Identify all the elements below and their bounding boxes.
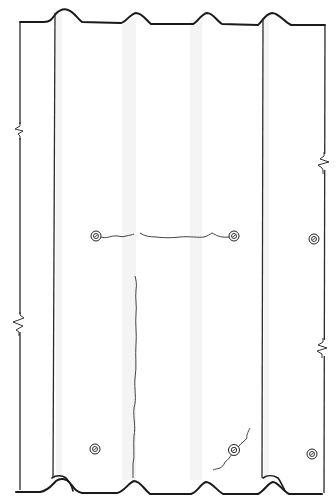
top-profile (20, 9, 325, 25)
left-panel-edge (53, 13, 55, 478)
fastener-f3 (309, 234, 319, 244)
fastener-f5 (229, 445, 240, 456)
horizontal-crack (101, 233, 229, 238)
shading-bands (56, 10, 269, 480)
fastener-f1 (91, 231, 101, 241)
right-outer-edge (324, 25, 325, 493)
fastener-f6 (307, 449, 317, 459)
right-panel-edge (262, 18, 263, 478)
panel-drawing (0, 0, 336, 502)
fastener-f2 (229, 231, 239, 241)
bottom-profile (16, 479, 322, 494)
fastener-f4 (90, 444, 100, 454)
